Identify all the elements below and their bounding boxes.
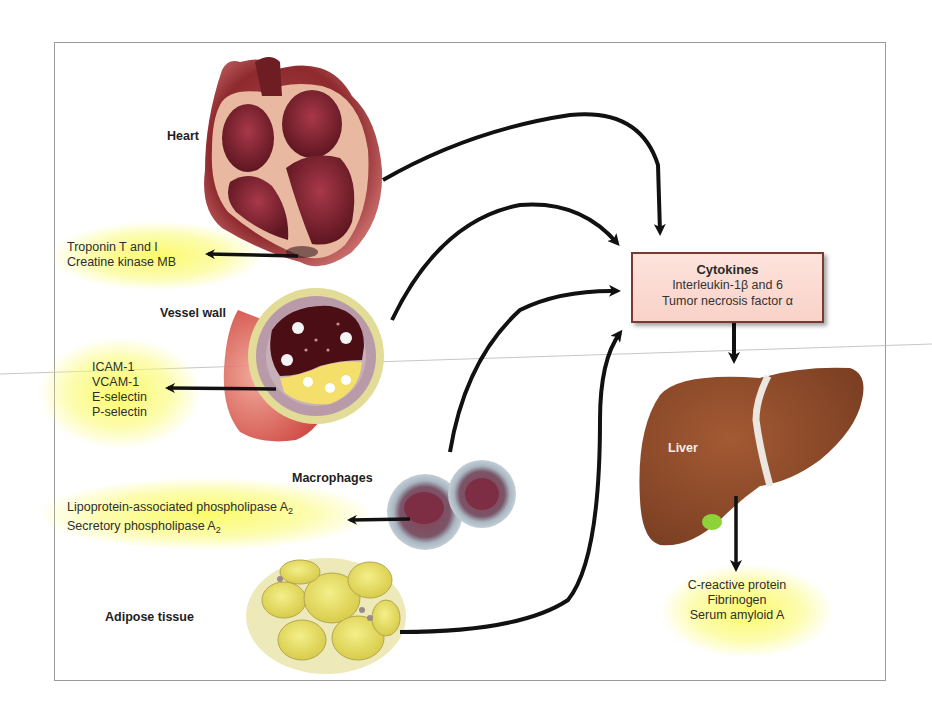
liver-marker-1: C-reactive protein <box>678 578 796 593</box>
macrophage-marker-1: Lipoprotein-associated phospholipase A2 <box>67 500 293 519</box>
heart-markers: Troponin T and I Creatine kinase MB <box>67 240 176 270</box>
arrow-macrophages-to-cytokines <box>450 291 617 452</box>
cytokines-box: Cytokines Interleukin-1β and 6 Tumor nec… <box>631 252 824 323</box>
heart-label: Heart <box>167 129 199 144</box>
arrow-macrophages-to-markers <box>350 519 410 520</box>
heart-marker-2: Creatine kinase MB <box>67 255 176 270</box>
macrophage-markers: Lipoprotein-associated phospholipase A2 … <box>67 500 293 538</box>
vessel-marker-1: ICAM-1 <box>92 360 147 375</box>
arrow-heart-to-cytokines <box>383 114 660 232</box>
diagram-canvas: Heart Troponin T and I Creatine kinase M… <box>0 0 932 711</box>
arrow-heart-to-markers <box>208 254 298 256</box>
liver-markers: C-reactive protein Fibrinogen Serum amyl… <box>678 578 796 623</box>
macrophages-label: Macrophages <box>292 471 373 486</box>
cytokine-line-2: Tumor necrosis factor α <box>633 293 822 309</box>
arrow-vessel-to-cytokines <box>392 204 617 320</box>
liver-label: Liver <box>668 441 698 456</box>
heart-marker-1: Troponin T and I <box>67 240 176 255</box>
vessel-marker-4: P-selectin <box>92 405 147 420</box>
cytokine-line-1: Interleukin-1β and 6 <box>633 277 822 293</box>
liver-marker-2: Fibrinogen <box>678 593 796 608</box>
arrow-vessel-to-markers <box>168 388 276 389</box>
arrow-adipose-to-cytokines <box>400 333 620 632</box>
vessel-markers: ICAM-1 VCAM-1 E-selectin P-selectin <box>92 360 147 420</box>
vessel-wall-label: Vessel wall <box>160 306 226 321</box>
cytokines-title: Cytokines <box>633 262 822 277</box>
macrophage-marker-2: Secretory phospholipase A2 <box>67 519 293 538</box>
liver-marker-3: Serum amyloid A <box>678 608 796 623</box>
vessel-marker-3: E-selectin <box>92 390 147 405</box>
adipose-tissue-label: Adipose tissue <box>105 610 194 625</box>
vessel-marker-2: VCAM-1 <box>92 375 147 390</box>
